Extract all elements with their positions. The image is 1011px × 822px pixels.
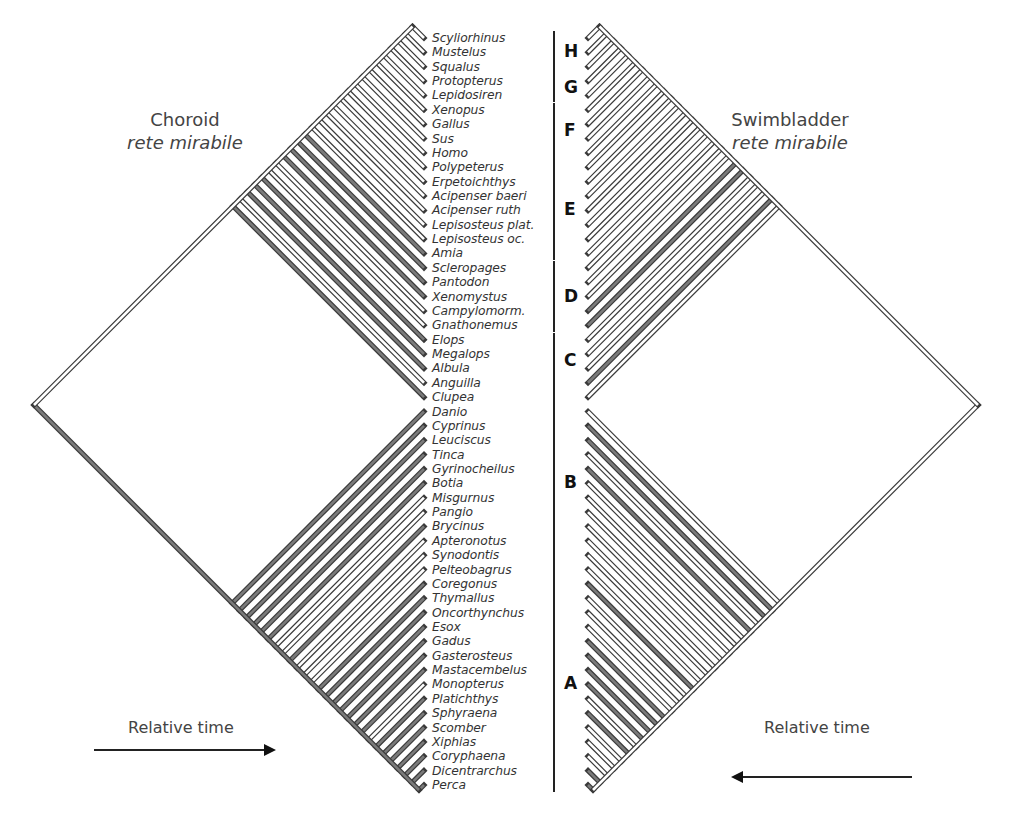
swimbladder-title-sub: rete mirabile [720, 131, 860, 154]
group-bar [553, 390, 555, 576]
taxon-label: Polypeterus [432, 160, 504, 175]
taxon-label: Elops [432, 333, 464, 348]
taxon-label: Albula [432, 361, 470, 376]
choroid-title: Choroid rete mirabile [115, 108, 255, 154]
arrow-head-left-icon [731, 771, 743, 783]
group-label-g: G [564, 77, 578, 97]
time-label-right: Relative time [764, 718, 870, 737]
taxon-label: Scleropages [432, 261, 506, 276]
taxon-label: Homo [432, 146, 468, 161]
taxon-label: Clupea [432, 390, 474, 405]
taxon-label: Monopterus [432, 677, 504, 692]
taxon-label: Gnathonemus [432, 318, 517, 333]
taxon-label: Campylomorm. [432, 304, 525, 319]
taxon-label: Mustelus [432, 45, 486, 60]
arrow-head-right-icon [264, 744, 276, 756]
group-bar [553, 74, 555, 102]
taxon-label: Brycinus [432, 519, 484, 534]
taxon-label: Dicentrarchus [432, 764, 517, 779]
choroid-title-sub: rete mirabile [115, 131, 255, 154]
taxon-label: Acipenser baeri [432, 189, 527, 204]
taxon-label: Megalops [432, 347, 490, 362]
taxon-label: Coregonus [432, 577, 497, 592]
group-bar [553, 103, 555, 160]
taxon-label: Lepisosteus plat. [432, 218, 534, 233]
taxon-label: Platichthys [432, 692, 498, 707]
taxon-label: Acipenser ruth [432, 203, 521, 218]
taxon-label: Scomber [432, 721, 486, 736]
taxon-label: Cyprinus [432, 419, 485, 434]
taxon-label: Pantodon [432, 275, 489, 290]
group-label-f: F [564, 120, 576, 140]
taxon-label: Coryphaena [432, 749, 505, 764]
group-bar [553, 261, 555, 332]
group-bar [553, 577, 555, 792]
taxon-label: Erpetoichthys [432, 175, 516, 190]
group-label-a: A [564, 673, 577, 693]
taxon-label: Xiphias [432, 735, 476, 750]
taxon-label: Danio [432, 405, 467, 420]
taxon-label: Xenomystus [432, 290, 507, 305]
taxon-label: Misgurnus [432, 491, 494, 506]
group-label-h: H [564, 41, 578, 61]
taxon-label: Botia [432, 476, 463, 491]
taxon-label: Anguilla [432, 376, 481, 391]
group-bar [553, 333, 555, 390]
taxon-label: Synodontis [432, 548, 499, 563]
time-arrow-right [742, 776, 912, 778]
group-label-b: B [564, 472, 577, 492]
swimbladder-title: Swimbladder rete mirabile [720, 108, 860, 154]
taxon-label: Scyliorhinus [432, 31, 505, 46]
taxon-label: Pelteobagrus [432, 563, 512, 578]
taxon-label: Thymallus [432, 591, 494, 606]
taxon-label: Protopterus [432, 74, 503, 89]
taxon-label: Gallus [432, 117, 470, 132]
taxon-label: Apteronotus [432, 534, 506, 549]
taxon-label: Xenopus [432, 103, 485, 118]
group-bar [553, 31, 555, 74]
taxon-label: Squalus [432, 60, 480, 75]
taxon-label: Pangio [432, 505, 473, 520]
taxon-label: Mastacembelus [432, 663, 527, 678]
taxon-label: Sus [432, 132, 454, 147]
taxon-label: Lepidosiren [432, 88, 502, 103]
group-bar [553, 160, 555, 260]
taxon-label: Gasterosteus [432, 649, 512, 664]
swimbladder-title-main: Swimbladder [731, 109, 848, 130]
taxon-label: Perca [432, 778, 466, 793]
time-arrow-left [94, 749, 266, 751]
taxon-label: Esox [432, 620, 461, 635]
taxon-label: Oncorthynchus [432, 606, 524, 621]
taxon-label: Leuciscus [432, 433, 491, 448]
group-label-d: D [564, 286, 578, 306]
group-label-c: C [564, 350, 576, 370]
choroid-title-main: Choroid [150, 109, 219, 130]
taxon-label: Gadus [432, 634, 471, 649]
taxon-label: Sphyraena [432, 706, 497, 721]
group-label-e: E [564, 199, 576, 219]
taxon-label: Amia [432, 246, 463, 261]
taxon-label: Tinca [432, 448, 465, 463]
time-label-left: Relative time [128, 718, 234, 737]
taxon-label: Lepisosteus oc. [432, 232, 525, 247]
taxon-label: Gyrinocheilus [432, 462, 514, 477]
